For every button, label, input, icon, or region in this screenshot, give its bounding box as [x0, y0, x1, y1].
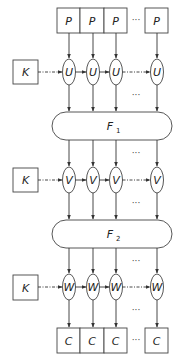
key-label: K: [22, 66, 30, 79]
mixing-layer-2: F 2: [52, 220, 172, 248]
plaintext-blocks: P P P P ···: [57, 8, 168, 33]
w-label: W: [111, 281, 123, 294]
ellipsis: ···: [132, 148, 141, 158]
f2-subscript: 2: [116, 235, 120, 243]
ciphertext-label: C: [112, 335, 120, 348]
input-arrows: [69, 33, 157, 58]
ellipsis: ···: [132, 335, 141, 345]
u-label: U: [89, 66, 97, 79]
ciphertext-label: C: [88, 335, 96, 348]
w-label: W: [88, 281, 100, 294]
key-label: K: [22, 282, 30, 295]
mixing-layer-1: F 1: [52, 112, 172, 140]
ellipsis: ···: [132, 198, 141, 208]
plaintext-label: P: [89, 15, 96, 28]
stage-2: K V V V V ···: [13, 167, 164, 208]
ellipsis: ···: [132, 256, 141, 266]
u-label: U: [112, 66, 120, 79]
w-label: W: [152, 281, 164, 294]
plaintext-label: P: [112, 15, 119, 28]
w-label: W: [64, 281, 76, 294]
ciphertext-label: C: [153, 335, 161, 348]
stage-1-arrows: [69, 85, 157, 111]
plaintext-label: P: [153, 15, 160, 28]
stage-1: K U U U U ···: [13, 59, 164, 100]
f2-arrows: ···: [69, 248, 157, 273]
f1-label: F: [107, 120, 114, 133]
ellipsis: ···: [132, 15, 141, 25]
ciphertext-label: C: [65, 335, 73, 348]
f2-label: F: [107, 228, 114, 241]
ellipsis: ···: [132, 90, 141, 100]
f1-subscript: 1: [116, 127, 120, 135]
plaintext-label: P: [65, 15, 72, 28]
stage-3: K W W W W ···: [13, 274, 164, 315]
output-arrows: [69, 300, 157, 327]
ellipsis: ···: [132, 305, 141, 315]
stage-2-arrows: [69, 193, 157, 219]
ciphertext-blocks: C C C C ···: [57, 328, 168, 353]
u-label: U: [153, 66, 161, 79]
f1-arrows: ···: [69, 140, 157, 166]
u-label: U: [65, 66, 73, 79]
key-label: K: [22, 174, 30, 187]
substitution-permutation-diagram: P P P P ··· K U U U U ···: [0, 0, 180, 363]
